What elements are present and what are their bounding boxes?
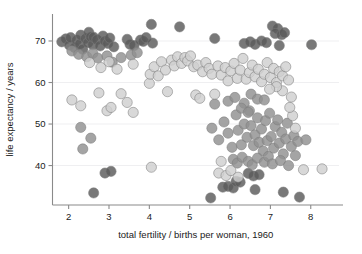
data-point: [89, 188, 99, 198]
data-point: [210, 33, 220, 43]
y-tick-label: 70: [35, 35, 46, 46]
data-point: [132, 48, 142, 58]
data-point: [279, 28, 289, 38]
data-point: [283, 160, 293, 170]
data-point: [144, 78, 154, 88]
data-point: [128, 59, 138, 69]
data-point: [290, 123, 300, 133]
data-point: [278, 187, 288, 197]
data-point: [294, 192, 304, 202]
data-point: [230, 92, 240, 102]
data-point: [128, 107, 138, 117]
data-point: [94, 88, 104, 98]
data-point: [85, 57, 95, 67]
data-point: [175, 22, 185, 32]
data-point: [207, 123, 217, 133]
data-point: [116, 53, 126, 63]
data-point: [106, 102, 116, 112]
x-tick-label: 8: [308, 211, 313, 222]
data-point: [259, 95, 269, 105]
data-point: [283, 75, 293, 85]
data-point: [223, 76, 233, 86]
data-point: [195, 93, 205, 103]
x-tick-label: 4: [147, 211, 152, 222]
data-point: [210, 89, 220, 99]
data-point: [210, 99, 220, 109]
data-point: [298, 165, 308, 175]
data-point: [238, 53, 248, 63]
data-point: [274, 40, 284, 50]
data-point: [235, 65, 245, 75]
data-points: [57, 19, 327, 203]
x-tick-label: 7: [268, 211, 273, 222]
data-point: [116, 89, 126, 99]
data-point: [301, 135, 311, 145]
data-point: [86, 133, 96, 143]
data-point: [122, 97, 132, 107]
data-point: [281, 62, 291, 72]
data-point: [243, 107, 253, 117]
data-point: [223, 128, 233, 138]
y-tick-label: 60: [35, 77, 46, 88]
data-point: [104, 57, 114, 67]
data-point: [147, 38, 157, 48]
data-point: [76, 122, 86, 132]
y-tick-label: 50: [35, 118, 46, 129]
y-tick-label: 40: [35, 160, 46, 171]
data-point: [106, 166, 116, 176]
data-point: [214, 135, 224, 145]
data-point: [78, 144, 88, 154]
data-point: [219, 117, 229, 127]
data-point: [250, 185, 260, 195]
chart-page: 234567840506070 total fertility / births…: [0, 0, 362, 254]
data-point: [264, 108, 274, 118]
data-point: [273, 115, 283, 125]
data-point: [261, 38, 271, 48]
x-tick-label: 6: [227, 211, 232, 222]
data-point: [233, 172, 243, 182]
data-point: [76, 101, 86, 111]
data-point: [266, 131, 276, 141]
y-axis-title: life expectancy / years: [4, 62, 15, 156]
data-point: [286, 92, 296, 102]
data-point: [67, 95, 77, 105]
data-point: [146, 162, 156, 172]
data-point: [317, 164, 327, 174]
data-point: [216, 156, 226, 166]
data-point: [285, 102, 295, 112]
x-tick-label: 2: [66, 211, 71, 222]
data-point: [290, 150, 300, 160]
data-point: [264, 84, 274, 94]
scatter-plot: 234567840506070 total fertility / births…: [0, 0, 362, 254]
data-point: [185, 51, 195, 61]
data-point: [306, 40, 316, 50]
data-point: [227, 142, 237, 152]
data-point: [206, 193, 216, 203]
data-point: [112, 64, 122, 74]
x-tick-label: 5: [187, 211, 192, 222]
data-point: [109, 42, 119, 52]
data-point: [146, 19, 156, 29]
data-point: [254, 170, 264, 180]
x-axis-title: total fertility / births per woman, 1960: [118, 229, 273, 240]
data-point: [162, 87, 172, 97]
x-tick-label: 3: [106, 211, 111, 222]
